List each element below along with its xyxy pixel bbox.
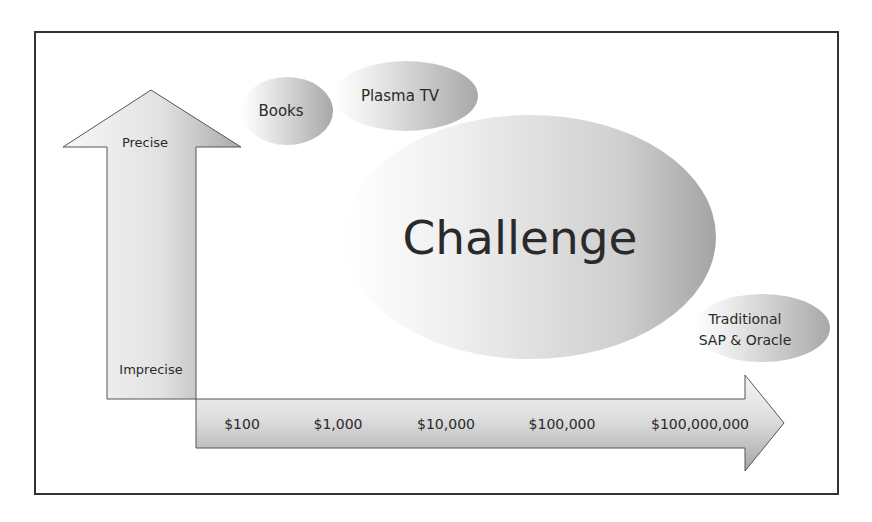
bubble-books: Books (241, 77, 333, 145)
bubble-books-label: Books (258, 102, 303, 120)
horizontal-axis-tick: $10,000 (417, 416, 475, 432)
bubble-traditional-shape (694, 294, 830, 362)
bubble-plasma-tv: Plasma TV (334, 61, 478, 131)
bubble-challenge: Challenge (344, 115, 716, 359)
bubble-plasma-tv-label: Plasma TV (361, 87, 440, 105)
price-precision-diagram: Books Plasma TV Challenge Traditional SA… (0, 0, 872, 522)
bubble-traditional: Traditional SAP & Oracle (694, 294, 830, 362)
vertical-axis-bottom-label: Imprecise (119, 362, 182, 377)
horizontal-axis-tick: $100,000 (529, 416, 596, 432)
horizontal-axis-tick: $100 (224, 416, 260, 432)
bubble-traditional-label-line1: Traditional (708, 311, 782, 327)
horizontal-axis-tick: $100,000,000 (651, 416, 749, 432)
bubble-traditional-label-line2: SAP & Oracle (699, 332, 792, 348)
bubble-challenge-label: Challenge (403, 210, 638, 265)
horizontal-axis-tick: $1,000 (314, 416, 363, 432)
vertical-axis-top-label: Precise (122, 135, 168, 150)
